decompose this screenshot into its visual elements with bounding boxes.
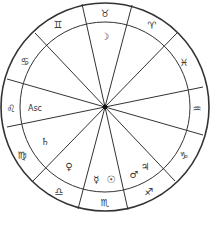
mercury-icon: ☿ — [93, 174, 99, 185]
moon-icon: ☽ — [101, 31, 110, 42]
center-dot — [103, 105, 108, 110]
scorpio-sign-icon: ♏ — [101, 197, 110, 208]
sun-icon: ☉ — [107, 174, 116, 185]
mars-icon: ♂ — [130, 169, 139, 180]
libra-sign-icon: ♎ — [55, 186, 64, 197]
virgo-sign-icon: ♍ — [18, 150, 27, 161]
cancer-sign-icon: ♋ — [21, 56, 30, 67]
sagittarius-sign-icon: ♐ — [145, 186, 154, 197]
pisces-sign-icon: ♓ — [180, 57, 189, 68]
ascendant-icon: Asc — [28, 104, 42, 113]
astrological-chart: ♉♈♓♒♑♐♏♎♍♌♋♊ ☽Asc♄♀☿☉♂♃ — [0, 0, 211, 227]
taurus-sign-icon: ♉ — [101, 8, 110, 19]
venus-icon: ♀ — [65, 161, 72, 172]
saturn-icon: ♄ — [41, 136, 50, 147]
leo-sign-icon: ♌ — [7, 103, 16, 114]
planet-positions: ☽Asc♄♀☿☉♂♃ — [28, 31, 150, 185]
jupiter-icon: ♃ — [141, 161, 150, 172]
aquarius-sign-icon: ♒ — [193, 103, 202, 114]
capricorn-sign-icon: ♑ — [180, 150, 189, 161]
gemini-sign-icon: ♊ — [54, 19, 63, 30]
aries-sign-icon: ♈ — [148, 20, 157, 31]
